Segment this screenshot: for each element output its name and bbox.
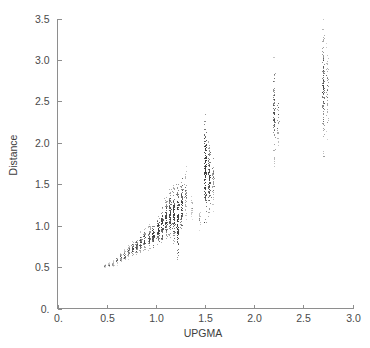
data-point [191,216,192,217]
data-point [208,165,209,166]
data-point [182,190,183,191]
data-point [162,218,163,219]
data-point [182,213,183,214]
data-point [185,209,186,210]
data-point [174,209,175,210]
data-point [277,130,278,131]
data-point [324,92,325,93]
data-point [274,78,275,79]
data-point [273,132,274,133]
data-point [149,224,150,225]
data-point [178,227,179,228]
data-point [161,242,162,243]
x-tick-label: 0. [54,312,63,324]
data-point [185,215,186,216]
data-point [204,135,205,136]
data-point [205,165,206,166]
y-tick-label: 2.5 [35,95,50,107]
x-tick-label: 1.5 [198,312,213,324]
data-point [137,252,138,253]
data-point [323,67,324,68]
data-point [210,162,211,163]
y-tick-label: 0.5 [35,261,50,273]
data-point [277,109,278,110]
data-point [158,240,159,241]
data-point [274,163,275,164]
data-point [161,224,162,225]
data-point [323,114,324,115]
data-point [128,255,129,256]
data-point [175,224,176,225]
data-point [166,220,167,221]
data-point [322,62,323,63]
data-point [209,180,210,181]
data-point [327,61,328,62]
data-point [159,230,160,231]
data-point [182,178,183,179]
data-point [205,161,206,162]
axis-layer: 0.0.51.01.52.02.53.00.0.51.01.52.02.53.0… [35,13,361,324]
data-point [323,130,324,131]
data-point [208,160,209,161]
data-point [323,108,324,109]
data-point [204,129,205,130]
data-point [205,153,206,154]
data-point [274,161,275,162]
data-point [205,171,206,172]
data-point [173,205,174,206]
data-point [326,92,327,93]
data-point [140,240,141,241]
data-point [178,190,179,191]
data-point [177,221,178,222]
data-point [205,150,206,151]
data-point [140,242,141,243]
data-point [205,185,206,186]
data-point [170,215,171,216]
data-point [212,168,213,169]
data-point [116,260,117,261]
data-point [176,194,177,195]
data-point [205,137,206,138]
data-point [192,219,193,220]
data-point [156,238,157,239]
data-point [105,264,106,265]
data-point [322,97,323,98]
data-point [136,249,137,250]
data-point [205,195,206,196]
data-point [274,88,275,89]
data-point [169,205,170,206]
data-point [170,212,171,213]
data-point [186,219,187,220]
data-point [173,212,174,213]
data-point [205,157,206,158]
data-point [209,169,210,170]
data-point [158,216,159,217]
data-point [177,201,178,202]
data-point [323,82,324,83]
data-point [153,247,154,248]
data-point [323,128,324,129]
data-point [273,104,274,105]
data-point [182,192,183,193]
data-point [278,138,279,139]
data-point [168,234,169,235]
data-point [177,228,178,229]
data-point [169,193,170,194]
data-point [173,187,174,188]
data-point [182,214,183,215]
data-point [171,224,172,225]
data-point [206,173,207,174]
data-point [171,204,172,205]
data-point [133,246,134,247]
data-point [145,237,146,238]
data-point [204,197,205,198]
data-point [278,141,279,142]
data-point [158,229,159,230]
data-point [162,230,163,231]
data-point [273,117,274,118]
data-point [132,250,133,251]
data-point [204,138,205,139]
data-point [177,216,178,217]
data-point [210,183,211,184]
data-point [178,230,179,231]
